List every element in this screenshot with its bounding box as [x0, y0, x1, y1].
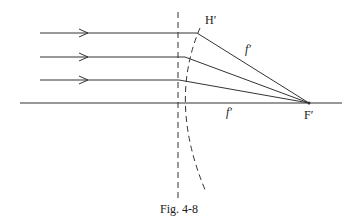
figure-caption: Fig. 4-8	[160, 202, 198, 217]
label-f-prime-upper: f′	[245, 43, 251, 55]
focal-point-dot	[308, 102, 311, 105]
ray-1	[40, 33, 309, 103]
principal-surface-curve	[185, 28, 206, 192]
label-f-prime-axis: f′	[226, 106, 232, 118]
label-h-prime: H′	[205, 14, 216, 26]
label-f-prime-focus: F′	[304, 109, 313, 121]
